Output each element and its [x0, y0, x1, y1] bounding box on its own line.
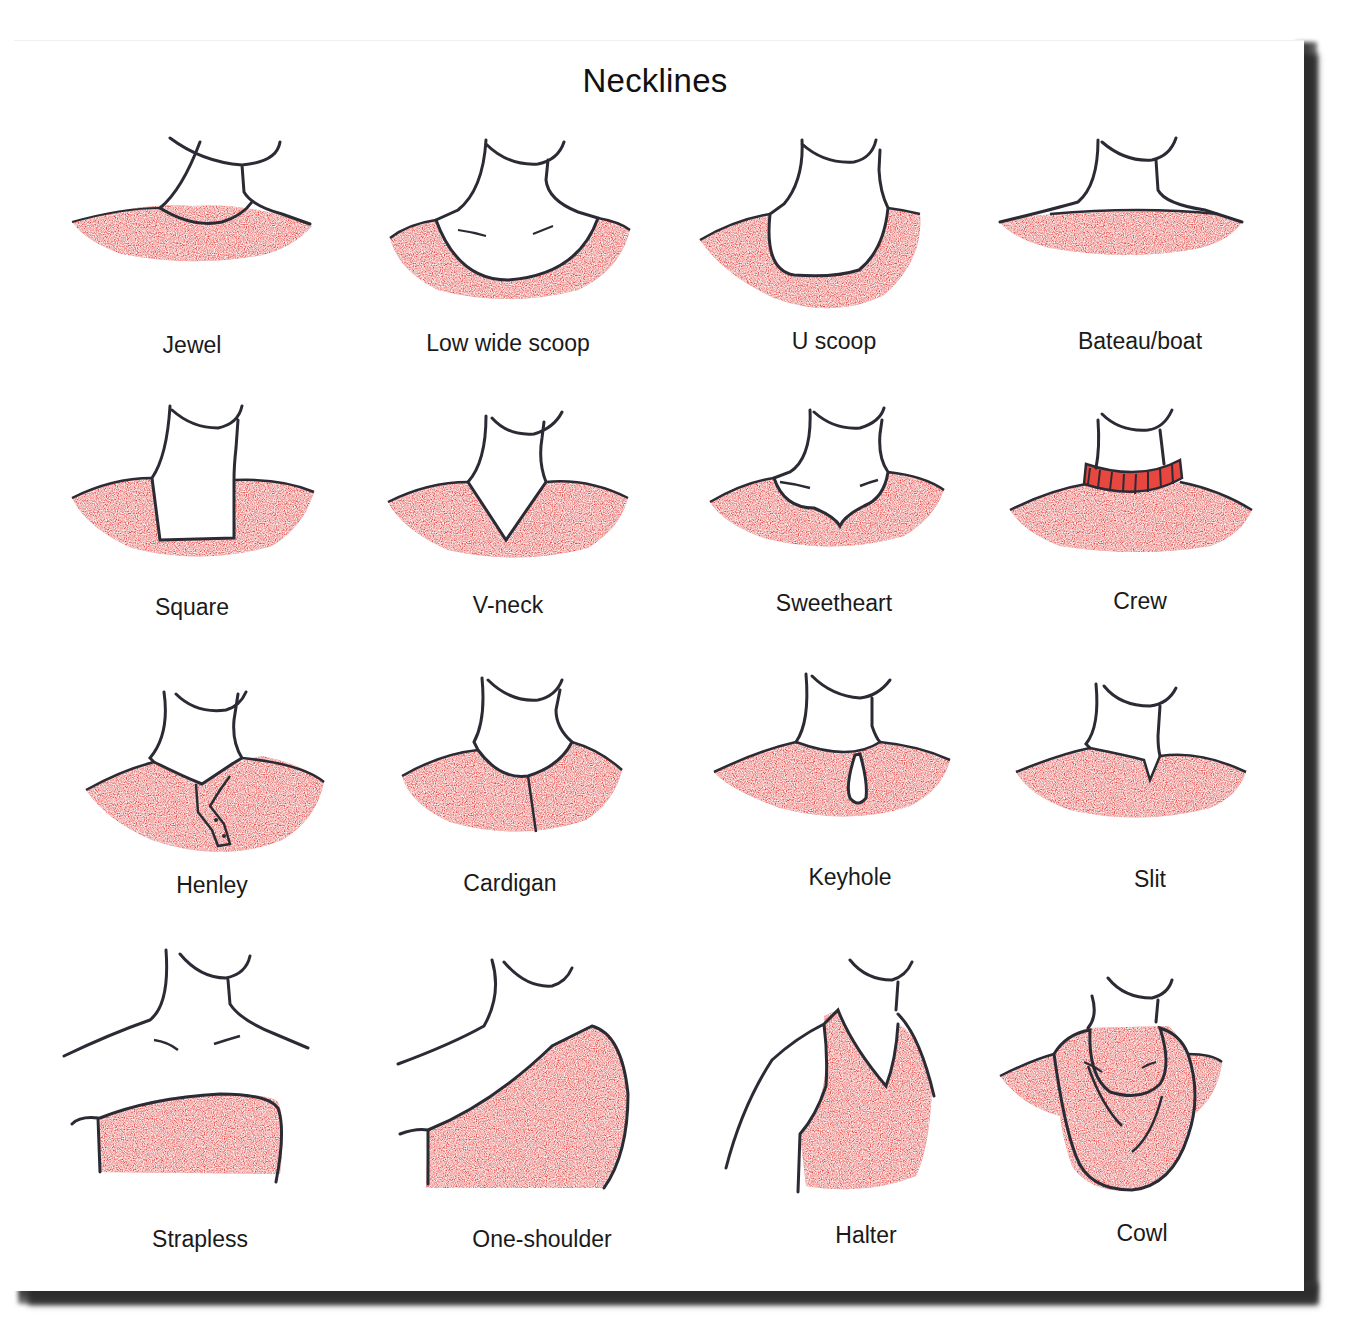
u-scoop-illustration: [684, 130, 984, 320]
halter-illustration: [716, 956, 1016, 1196]
neckline-crew: Crew: [990, 398, 1290, 658]
neckline-label: One-shoulder: [392, 1226, 692, 1253]
page-title: Necklines: [0, 62, 1310, 100]
neckline-label: Cowl: [992, 1220, 1292, 1247]
neckline-label: Square: [42, 594, 342, 621]
neckline-label: Cardigan: [360, 870, 660, 897]
cardigan-illustration: [360, 670, 660, 850]
neckline-label: Jewel: [42, 332, 342, 359]
neckline-strapless: Strapless: [50, 944, 350, 1204]
neckline-label: Keyhole: [700, 864, 1000, 891]
v-neck-illustration: [358, 398, 658, 578]
strapless-illustration: [50, 944, 350, 1184]
low-wide-scoop-illustration: [358, 130, 658, 310]
one-shoulder-illustration: [392, 954, 692, 1194]
slit-illustration: [1000, 676, 1300, 836]
crew-illustration: [990, 398, 1290, 558]
neckline-henley: Henley: [62, 680, 362, 940]
bateau-illustration: [990, 130, 1290, 280]
neckline-keyhole: Keyhole: [700, 666, 1000, 926]
neckline-label: U scoop: [684, 328, 984, 355]
neckline-label: Bateau/boat: [990, 328, 1290, 355]
neckline-v-neck: V-neck: [358, 398, 658, 658]
neckline-low-wide-scoop: Low wide scoop: [358, 130, 658, 390]
neckline-label: Halter: [716, 1222, 1016, 1249]
neckline-u-scoop: U scoop: [684, 130, 984, 390]
neckline-label: Crew: [990, 588, 1290, 615]
neckline-label: Henley: [62, 872, 362, 899]
neckline-label: Sweetheart: [684, 590, 984, 617]
keyhole-illustration: [700, 666, 1000, 836]
square-illustration: [42, 398, 342, 578]
neckline-label: Low wide scoop: [358, 330, 658, 357]
neckline-square: Square: [42, 398, 342, 658]
sweetheart-illustration: [684, 398, 984, 568]
neckline-jewel: Jewel: [42, 130, 342, 390]
neckline-cardigan: Cardigan: [360, 670, 660, 930]
neckline-sweetheart: Sweetheart: [684, 398, 984, 658]
cowl-illustration: [992, 966, 1292, 1206]
neckline-label: Strapless: [50, 1226, 350, 1253]
neckline-label: V-neck: [358, 592, 658, 619]
neckline-bateau: Bateau/boat: [990, 130, 1290, 390]
neckline-cowl: Cowl: [992, 966, 1292, 1226]
neckline-one-shoulder: One-shoulder: [392, 954, 692, 1214]
jewel-illustration: [42, 130, 342, 280]
neckline-slit: Slit: [1000, 676, 1300, 936]
henley-illustration: [62, 680, 362, 870]
neckline-halter: Halter: [716, 956, 1016, 1216]
neckline-label: Slit: [1000, 866, 1300, 893]
